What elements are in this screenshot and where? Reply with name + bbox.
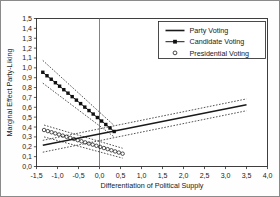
data-marker-square — [100, 119, 103, 122]
data-marker-square — [71, 95, 74, 98]
y-tick-label: 0,3 — [22, 133, 32, 140]
y-tick-label: 1,3 — [22, 35, 32, 42]
x-tick-label: -1,5 — [30, 172, 42, 179]
x-tick-labels: -1,5-1,0-0,50,00,51,01,52,02,53,03,54,0 — [30, 172, 272, 179]
y-tick-label: 0,7 — [22, 94, 32, 101]
x-tick-label: 2,5 — [200, 172, 210, 179]
data-marker-square — [92, 112, 95, 115]
x-tick-label: 4,0 — [263, 172, 273, 179]
y-tick-label: 0,6 — [22, 104, 32, 111]
x-tick-label: 0,0 — [95, 172, 105, 179]
data-marker-square — [104, 123, 107, 126]
x-tick-label: 0,5 — [116, 172, 126, 179]
data-marker-square — [108, 126, 111, 129]
data-marker-square — [113, 130, 116, 133]
x-tick-label: 1,0 — [137, 172, 147, 179]
data-marker-square — [54, 81, 57, 84]
y-tick-label: 1,1 — [22, 54, 32, 61]
x-tick-label: -1,0 — [51, 172, 63, 179]
y-tick-label: 0,5 — [22, 114, 32, 121]
data-marker-square — [66, 91, 69, 94]
legend-box: Party VotingCandidate VotingPresidential… — [159, 22, 266, 59]
y-tick-label: 0,1 — [22, 153, 32, 160]
y-tick-label: 0,8 — [22, 84, 32, 91]
data-marker-square — [75, 98, 78, 101]
data-marker-square — [96, 116, 99, 119]
data-marker-square — [79, 102, 82, 105]
y-tick-label: 1,0 — [22, 64, 32, 71]
y-tick-label: 1,5 — [22, 15, 32, 22]
legend-item-label: Party Voting — [190, 26, 229, 35]
data-marker-square — [41, 71, 44, 74]
data-marker-square — [83, 105, 86, 108]
x-tick-label: -0,5 — [72, 172, 84, 179]
y-axis-label: Marginal Effect Party-Liking — [5, 49, 14, 137]
y-axis-title: Marginal Effect Party-Liking — [5, 49, 14, 137]
legend-item-label: Candidate Voting — [190, 37, 245, 46]
y-tick-label: 0,9 — [22, 74, 32, 81]
data-marker-square — [87, 109, 90, 112]
y-tick-label: 1,2 — [22, 45, 32, 52]
data-marker-square — [62, 88, 65, 91]
y-tick-label: 0,2 — [22, 143, 32, 150]
data-marker-square — [58, 85, 61, 88]
x-tick-label: 1,5 — [158, 172, 168, 179]
x-tick-label: 3,5 — [242, 172, 252, 179]
x-tick-label: 2,0 — [179, 172, 189, 179]
y-tick-label: 0,0 — [22, 163, 32, 170]
x-axis-title: Differentiation of Political Supply — [101, 181, 204, 190]
legend-item-label: Presidential Voting — [190, 49, 250, 58]
marginal-effects-chart: -1,5-1,0-0,50,00,51,01,52,02,53,03,54,0 … — [1, 1, 280, 197]
data-marker-square — [50, 78, 53, 81]
x-tick-label: 3,0 — [221, 172, 231, 179]
y-tick-labels: 0,00,10,20,30,40,50,60,70,80,91,01,11,21… — [22, 15, 32, 170]
figure-container: -1,5-1,0-0,50,00,51,01,52,02,53,03,54,0 … — [0, 0, 280, 197]
y-tick-label: 1,4 — [22, 25, 32, 32]
data-marker-square — [45, 74, 48, 77]
x-axis-label: Differentiation of Political Supply — [101, 181, 204, 190]
y-tick-label: 0,4 — [22, 124, 32, 131]
legend-marker-square — [173, 40, 177, 44]
